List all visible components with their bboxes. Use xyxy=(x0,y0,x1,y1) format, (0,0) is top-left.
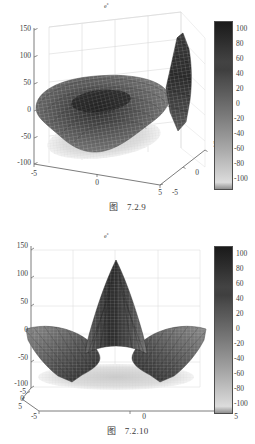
y-tick: -5 xyxy=(163,188,187,197)
colorbar-tick: -80 xyxy=(234,159,244,168)
y-tick: 0 xyxy=(185,168,209,177)
y-tick: 5 xyxy=(4,402,22,411)
z-tick: 100 xyxy=(0,269,28,278)
colorbar-tick: 20 xyxy=(236,84,244,93)
x-tick: -5 xyxy=(22,169,46,178)
figure-caption-2: 图7.2.10 xyxy=(0,424,255,437)
x-tick: 0 xyxy=(132,412,156,421)
colorbar-tick: -80 xyxy=(234,384,244,393)
caption-label: 图 xyxy=(109,202,118,212)
z-tick: 150 xyxy=(2,24,31,33)
colorbar-tick: -20 xyxy=(234,114,244,123)
colorbar-tick: 0 xyxy=(236,99,240,108)
colorbar-tick: -100 xyxy=(234,174,248,183)
colorbar-tick: -40 xyxy=(234,129,244,138)
caption-number: 7.2.10 xyxy=(125,426,149,436)
colorbar-tick: 60 xyxy=(236,54,244,63)
colorbar-tick: 80 xyxy=(236,39,244,48)
z-tick: -50 xyxy=(2,132,31,141)
colorbar-tick: 100 xyxy=(236,249,247,258)
z-tick: -100 xyxy=(0,158,31,167)
x-tick: 0 xyxy=(85,178,109,187)
figure-7-2-9: ez xyxy=(0,0,255,222)
colorbar-tick: 0 xyxy=(236,324,240,333)
z-tick: -50 xyxy=(0,353,28,362)
colorbar-tick: -20 xyxy=(234,339,244,348)
colorbar-tick: -40 xyxy=(234,354,244,363)
x-tick: -5 xyxy=(22,412,46,421)
colorbar-tick: 40 xyxy=(236,69,244,78)
colorbar-tick: -60 xyxy=(234,369,244,378)
colorbar-tick: 60 xyxy=(236,279,244,288)
colorbar-tick: 80 xyxy=(236,264,244,273)
z-tick: 0 xyxy=(0,325,28,334)
caption-label: 图 xyxy=(107,426,116,436)
colorbar-gradient-2 xyxy=(214,246,233,414)
colorbar-tick: -100 xyxy=(234,399,248,408)
colorbar-tick: -60 xyxy=(234,144,244,153)
z-tick: 50 xyxy=(0,297,28,306)
figure-caption-1: 图7.2.9 xyxy=(0,200,255,213)
z-tick: 0 xyxy=(2,105,31,114)
colorbar-tick: 100 xyxy=(236,24,247,33)
colorbar-gradient-1 xyxy=(214,21,233,190)
figure-7-2-10: ez xyxy=(0,222,255,444)
z-tick: 100 xyxy=(2,51,31,60)
caption-number: 7.2.9 xyxy=(127,202,146,212)
colorbar-tick: 20 xyxy=(236,309,244,318)
z-tick: 50 xyxy=(2,78,31,87)
z-tick: 150 xyxy=(0,241,28,250)
colorbar-tick: 40 xyxy=(236,294,244,303)
